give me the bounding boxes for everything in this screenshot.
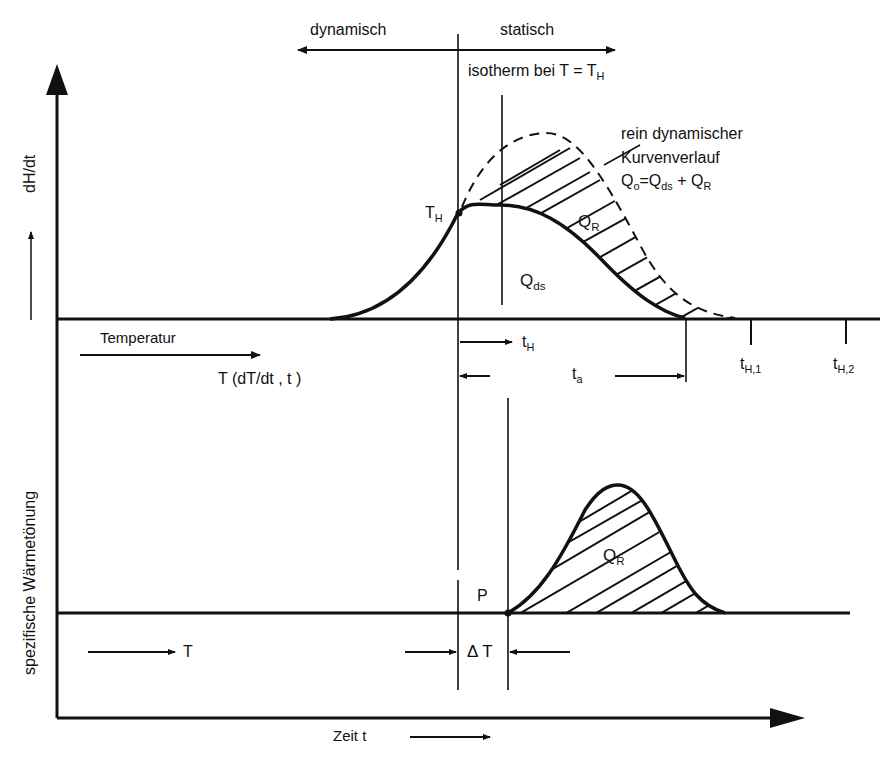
hatch-upper-qr [440,148,860,440]
x-axis-label: Zeit t [333,728,366,743]
qr-lower-label: QR [603,547,625,568]
annotation-line1: rein dynamischer [621,126,743,142]
y-axis-label-unit: dH/dt [22,155,38,193]
static-label: statisch [500,22,554,38]
delta-t-label: Δ T [467,643,493,660]
th1-time-label: tH,1 [740,356,761,375]
hatch-lower-qr [500,480,860,645]
th-point [456,210,463,217]
x-axis [57,708,805,728]
lower-temperature-label: T [183,644,193,660]
temperature-label: Temperatur [100,330,176,345]
dsc-diagram: dynamisch statisch isotherm bei T = TH r… [0,0,894,767]
y-axis [46,64,68,718]
ta-time-label: ta [572,366,583,385]
annotation-formula: Qo=Qds + QR [621,173,711,192]
diagram-canvas [0,0,894,767]
annotation-line2: Kurvenverlauf [621,150,720,166]
y-axis-label-main: spezifische Wärmetönung [22,491,38,675]
p-label: P [477,588,488,604]
isotherm-label: isotherm bei T = TH [468,63,604,82]
temperature-function-label: T (dT/dt , t ) [218,371,301,387]
th2-time-label: tH,2 [833,356,854,375]
heat-flow-curve [330,204,685,319]
p-point [505,610,512,617]
th-label: TH [425,205,443,224]
qds-label: Qds [520,272,545,293]
dynamic-label: dynamisch [310,22,386,38]
th-time-label: tH [522,334,534,353]
qr-upper-label: QR [578,213,600,234]
